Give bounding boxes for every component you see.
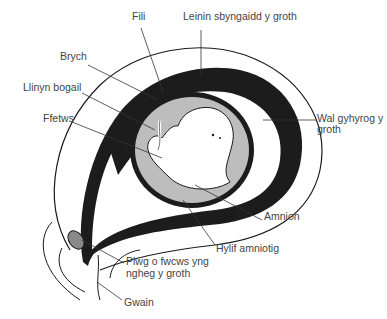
- label-plwg-line2: ngheg y groth: [126, 268, 190, 279]
- label-leinin: Leinin sbyngaidd y groth: [183, 11, 297, 22]
- label-wal-line2: groth: [317, 124, 341, 135]
- label-fili: Fili: [132, 11, 145, 22]
- fetus-eye: [212, 134, 214, 136]
- fetus-ear: [219, 137, 221, 139]
- label-brych: Brych: [60, 51, 87, 62]
- label-gwain: Gwain: [124, 297, 154, 308]
- label-ffetws: Ffetws: [43, 113, 74, 124]
- label-plwg-line1: Plwg o fwcws yng: [126, 256, 209, 267]
- leader-brych: [88, 65, 158, 100]
- uterus-fetus-diagram: Fili Leinin sbyngaidd y groth Brych Llin…: [0, 0, 387, 319]
- diagram-drawing: [0, 0, 387, 319]
- vagina-wall-inner: [59, 248, 85, 292]
- vagina-wall-right: [98, 255, 100, 300]
- label-hylif: Hylif amniotig: [216, 243, 279, 254]
- leader-gwain: [97, 282, 122, 300]
- label-llinyn: Llinyn bogail: [23, 82, 81, 93]
- leader-fili: [141, 28, 163, 92]
- label-amnion: Amnion: [264, 211, 300, 222]
